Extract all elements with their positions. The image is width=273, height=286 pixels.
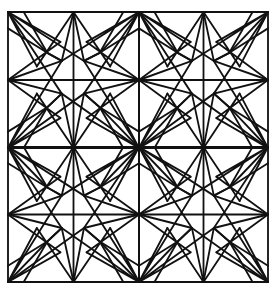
block-top-right [139, 12, 268, 148]
block-bottom-right [139, 147, 268, 282]
block-bottom-left [8, 147, 139, 282]
quilt-pattern-drawing [0, 0, 273, 286]
block-top-left [8, 12, 139, 148]
